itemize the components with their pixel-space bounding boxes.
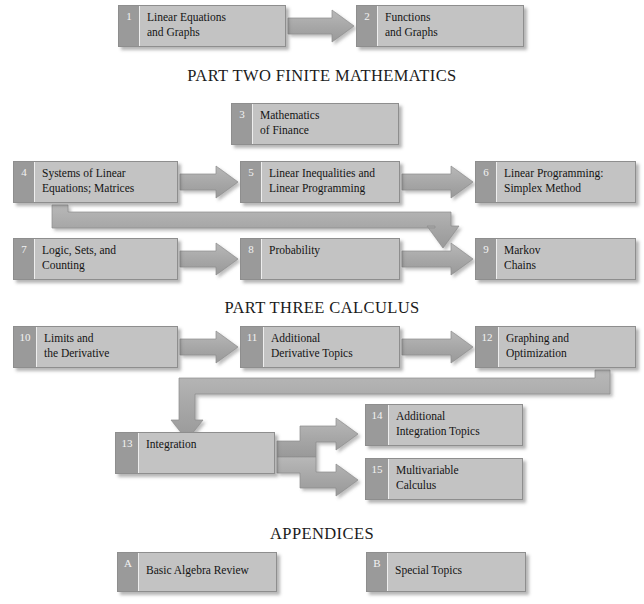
chapter-number-10: 10 (14, 327, 37, 367)
chapter-number-11: 11 (241, 327, 264, 367)
chapter-label-13: Integration (139, 433, 274, 473)
chapter-label-4: Systems of Linear Equations; Matrices (35, 162, 177, 202)
chapter-label-11: Additional Derivative Topics (264, 327, 399, 367)
chapter-box-10[interactable]: 10 Limits and the Derivative (13, 326, 178, 368)
chapter-box-11[interactable]: 11 Additional Derivative Topics (240, 326, 400, 368)
appendix-letter-b: B (367, 553, 388, 591)
chapter-label-6: Linear Programming: Simplex Method (497, 162, 635, 202)
appendix-box-a[interactable]: A Basic Algebra Review (117, 552, 277, 592)
chapter-box-8[interactable]: 8 Probability (240, 238, 400, 280)
chapter-label-9: Markov Chains (497, 239, 635, 279)
chapter-label-1: Linear Equations and Graphs (140, 6, 285, 46)
chapter-label-15: Multivariable Calculus (389, 459, 522, 499)
flowchart-canvas: PART TWO FINITE MATHEMATICS PART THREE C… (0, 0, 644, 604)
chapter-number-15: 15 (366, 459, 389, 499)
chapter-box-7[interactable]: 7 Logic, Sets, and Counting (13, 238, 178, 280)
chapter-label-7: Logic, Sets, and Counting (35, 239, 177, 279)
chapter-label-3: Mathematics of Finance (253, 104, 398, 144)
chapter-label-12: Graphing and Optimization (499, 327, 635, 367)
chapter-number-14: 14 (366, 405, 389, 445)
arrow-ch8-to-ch9 (402, 243, 473, 275)
chapter-label-10: Limits and the Derivative (37, 327, 177, 367)
appendix-box-b[interactable]: B Special Topics (366, 552, 526, 592)
arrow-ch13-to-ch15 (277, 457, 358, 496)
arrow-ch5-to-ch6 (402, 166, 473, 198)
chapter-box-9[interactable]: 9 Markov Chains (475, 238, 636, 280)
arrow-ch10-to-ch11 (180, 331, 238, 363)
appendix-label-b: Special Topics (388, 553, 525, 591)
arrow-ch4-to-ch5 (180, 166, 238, 198)
heading-appendices: APPENDICES (0, 524, 644, 544)
chapter-label-2: Functions and Graphs (378, 6, 523, 46)
chapter-number-7: 7 (14, 239, 35, 279)
chapter-box-2[interactable]: 2 Functions and Graphs (356, 5, 524, 47)
chapter-number-1: 1 (119, 6, 140, 46)
arrow-ch7-to-ch8 (180, 243, 238, 275)
chapter-box-6[interactable]: 6 Linear Programming: Simplex Method (475, 161, 636, 203)
chapter-number-12: 12 (476, 327, 499, 367)
arrow-ch13-to-ch14 (277, 418, 358, 457)
chapter-number-3: 3 (232, 104, 253, 144)
chapter-box-4[interactable]: 4 Systems of Linear Equations; Matrices (13, 161, 178, 203)
arrow-ch11-to-ch12 (402, 331, 473, 363)
appendix-letter-a: A (118, 553, 139, 591)
heading-part-two: PART TWO FINITE MATHEMATICS (0, 66, 644, 86)
chapter-number-2: 2 (357, 6, 378, 46)
chapter-label-14: Additional Integration Topics (389, 405, 522, 445)
chapter-box-15[interactable]: 15 Multivariable Calculus (365, 458, 523, 500)
arrow-ch1-to-ch2 (288, 10, 354, 42)
chapter-box-14[interactable]: 14 Additional Integration Topics (365, 404, 523, 446)
chapter-box-3[interactable]: 3 Mathematics of Finance (231, 103, 399, 145)
chapter-number-8: 8 (241, 239, 262, 279)
chapter-label-8: Probability (262, 239, 399, 279)
chapter-box-5[interactable]: 5 Linear Inequalities and Linear Program… (240, 161, 400, 203)
chapter-number-4: 4 (14, 162, 35, 202)
chapter-box-1[interactable]: 1 Linear Equations and Graphs (118, 5, 286, 47)
appendix-label-a: Basic Algebra Review (139, 553, 276, 591)
chapter-number-6: 6 (476, 162, 497, 202)
heading-part-three: PART THREE CALCULUS (0, 298, 644, 318)
chapter-number-13: 13 (116, 433, 139, 473)
chapter-label-5: Linear Inequalities and Linear Programmi… (262, 162, 399, 202)
chapter-box-12[interactable]: 12 Graphing and Optimization (475, 326, 636, 368)
chapter-number-9: 9 (476, 239, 497, 279)
chapter-box-13[interactable]: 13 Integration (115, 432, 275, 474)
chapter-number-5: 5 (241, 162, 262, 202)
